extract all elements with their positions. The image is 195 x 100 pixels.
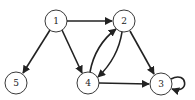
node-5: 5 — [5, 72, 27, 94]
node-label: 2 — [121, 16, 127, 26]
node-3: 3 — [150, 73, 172, 95]
edge-1-4 — [62, 30, 82, 73]
edge-3-3-self-loop — [171, 77, 185, 90]
edge-1-5 — [23, 30, 50, 73]
node-4: 4 — [77, 72, 99, 94]
node-label: 5 — [13, 78, 19, 88]
edge-2-4 — [98, 32, 122, 77]
edge-4-3 — [99, 83, 149, 84]
directed-graph: 1 2 3 4 5 — [0, 0, 195, 100]
edge-2-3 — [130, 31, 154, 74]
node-label: 4 — [85, 78, 91, 88]
node-label: 3 — [158, 79, 164, 89]
node-2: 2 — [113, 10, 135, 32]
edge-4-2 — [90, 29, 116, 72]
node-label: 1 — [53, 16, 59, 26]
node-1: 1 — [45, 10, 67, 32]
